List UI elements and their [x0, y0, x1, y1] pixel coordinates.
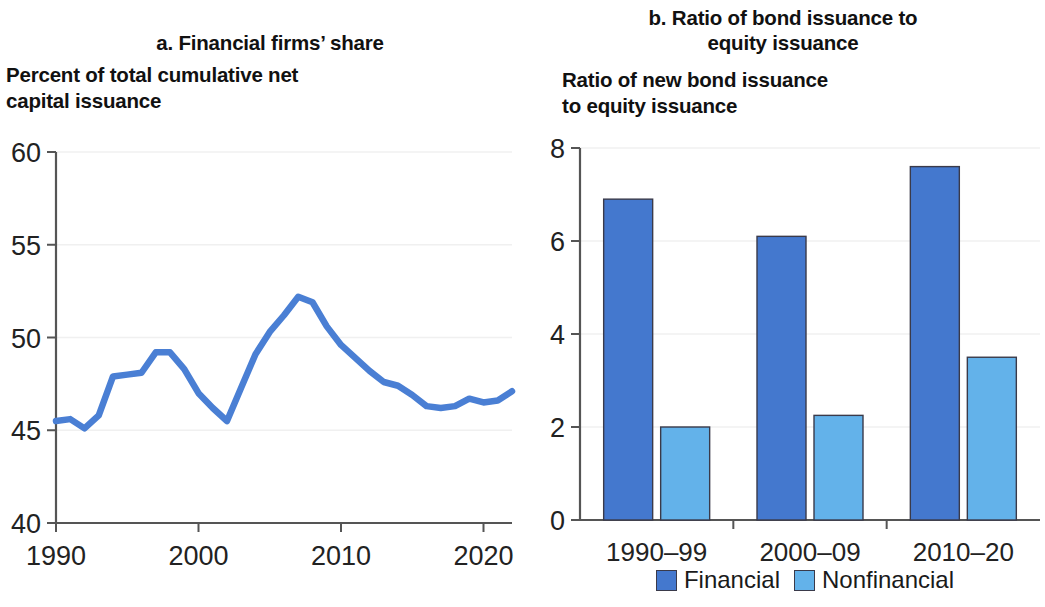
x-axis-tick-label: 1990 — [26, 541, 86, 571]
x-axis-tick-label: 2010 — [311, 541, 371, 571]
figure: a. Financial firms’ share Percent of tot… — [0, 0, 1045, 607]
bar-financial-1990–99 — [604, 199, 653, 520]
legend: FinancialNonfinancial — [590, 566, 1020, 594]
panel-b-svg: 024681990–992000–092010–20 — [520, 0, 1045, 540]
line-series-financial-share — [56, 297, 512, 429]
y-axis-tick-label: 4 — [550, 320, 565, 350]
y-axis-tick-label: 60 — [11, 138, 41, 168]
x-axis-tick-label: 2020 — [453, 541, 513, 571]
x-axis-tick-label: 2000–09 — [759, 537, 860, 567]
y-axis-tick-label: 8 — [550, 134, 565, 164]
bar-nonfinancial-1990–99 — [661, 427, 710, 520]
bar-nonfinancial-2000–09 — [814, 415, 863, 520]
y-axis-tick-label: 40 — [11, 509, 41, 539]
y-axis-tick-label: 55 — [11, 231, 41, 261]
panel-a: a. Financial firms’ share Percent of tot… — [0, 0, 520, 607]
x-axis-tick-label: 2010–20 — [913, 537, 1014, 567]
bar-nonfinancial-2010–20 — [967, 357, 1016, 520]
y-axis-tick-label: 45 — [11, 416, 41, 446]
legend-item-financial: Financial — [656, 566, 780, 594]
panel-a-plot: 40455055601990200020102020 — [0, 0, 520, 540]
legend-label: Financial — [684, 566, 780, 594]
panel-b: b. Ratio of bond issuance to equity issu… — [520, 0, 1045, 607]
panel-a-svg: 40455055601990200020102020 — [0, 0, 520, 540]
bar-financial-2000–09 — [757, 236, 806, 520]
legend-swatch-icon — [794, 570, 815, 591]
legend-swatch-icon — [656, 570, 677, 591]
x-axis-tick-label: 2000 — [168, 541, 228, 571]
y-axis-tick-label: 2 — [550, 413, 565, 443]
bar-financial-2010–20 — [910, 167, 959, 520]
y-axis-tick-label: 0 — [550, 506, 565, 536]
panel-b-plot: 024681990–992000–092010–20 — [520, 0, 1045, 540]
legend-label: Nonfinancial — [822, 566, 954, 594]
y-axis-tick-label: 6 — [550, 227, 565, 257]
legend-item-nonfinancial: Nonfinancial — [794, 566, 954, 594]
y-axis-tick-label: 50 — [11, 324, 41, 354]
x-axis-tick-label: 1990–99 — [606, 537, 707, 567]
